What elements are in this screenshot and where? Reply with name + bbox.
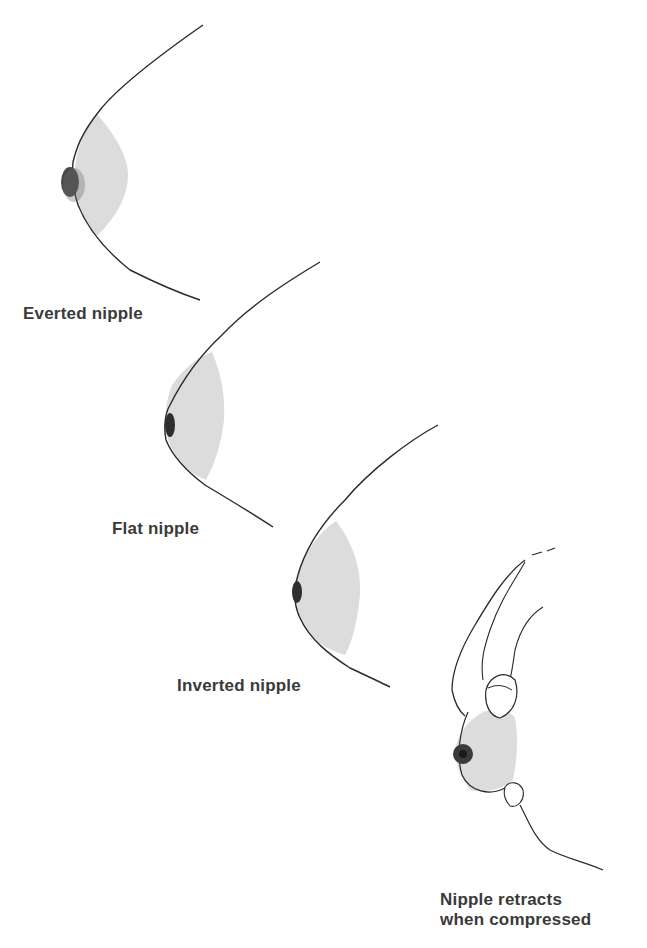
flat-nipple-icon: [165, 413, 175, 437]
inverted-nipple-icon: [292, 581, 302, 603]
flat-breast-drawing: [165, 262, 320, 527]
inverted-breast-drawing: [292, 425, 438, 687]
label-compressed-line1: Nipple retracts: [440, 890, 562, 910]
label-inverted-nipple: Inverted nipple: [177, 676, 301, 696]
areola-shading: [294, 521, 360, 655]
label-everted-nipple: Everted nipple: [23, 304, 143, 324]
label-compressed-line2: when compressed: [440, 910, 591, 930]
everted-breast-drawing: [61, 25, 203, 300]
compressed-breast-drawing: [452, 548, 603, 870]
breast-illustration: [0, 0, 647, 948]
areola-shading: [166, 352, 225, 480]
finger-icon: [504, 783, 523, 807]
thumb-icon: [486, 675, 517, 718]
label-flat-nipple: Flat nipple: [112, 519, 199, 539]
